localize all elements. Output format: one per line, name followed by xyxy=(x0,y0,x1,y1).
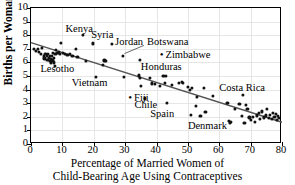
annotation-jordan: Jordan xyxy=(115,36,143,47)
annotation-lesotho: Lesotho xyxy=(40,63,74,74)
y-tick-label: 0 xyxy=(6,138,28,148)
y-tick-label: 7 xyxy=(6,43,28,53)
annotation-spain: Spain xyxy=(150,108,174,119)
plot-area: KenyaSyriaJordanBotswanaZimbabweHonduras… xyxy=(30,7,281,143)
x-tick-label: 80 xyxy=(269,145,293,155)
y-tick-label: 10 xyxy=(6,2,28,12)
annotation-vietnam: Vietnam xyxy=(72,77,108,88)
x-tick-label: 50 xyxy=(175,145,199,155)
x-axis-title: Percentage of Married Women of Child-Bea… xyxy=(0,157,295,182)
scatter-chart: Births per Woman KenyaSyriaJordanBotswan… xyxy=(0,0,295,185)
y-tick-label: 8 xyxy=(6,29,28,39)
x-tick-label: 70 xyxy=(238,145,262,155)
x-axis-title-line1: Percentage of Married Women of xyxy=(0,157,295,170)
x-tick-label: 40 xyxy=(144,145,168,155)
x-axis-title-line2: Child-Bearing Age Using Contraceptives xyxy=(0,170,295,183)
x-tick-label: 30 xyxy=(112,145,136,155)
x-tick-label: 10 xyxy=(49,145,73,155)
x-tick-label: 60 xyxy=(206,145,230,155)
y-tick-label: 5 xyxy=(6,70,28,80)
y-tick-label: 3 xyxy=(6,97,28,107)
annotation-honduras: Honduras xyxy=(141,61,182,72)
y-tick-label: 6 xyxy=(6,56,28,66)
y-tick-label: 4 xyxy=(6,84,28,94)
annotation-zimbabwe: Zimbabwe xyxy=(160,49,211,60)
x-tick-label: 20 xyxy=(81,145,105,155)
annotation-kenya: Kenya xyxy=(66,23,93,34)
annotation-botswana: Botswana xyxy=(147,36,188,47)
y-tick-label: 1 xyxy=(6,124,28,134)
y-tick-label: 9 xyxy=(6,16,28,26)
annotation-syria: Syria xyxy=(91,29,113,40)
annotation-denmark: Denmark xyxy=(188,120,227,131)
y-tick-label: 2 xyxy=(6,111,28,121)
annotation-costa-rica: Costa Rica xyxy=(219,82,265,93)
